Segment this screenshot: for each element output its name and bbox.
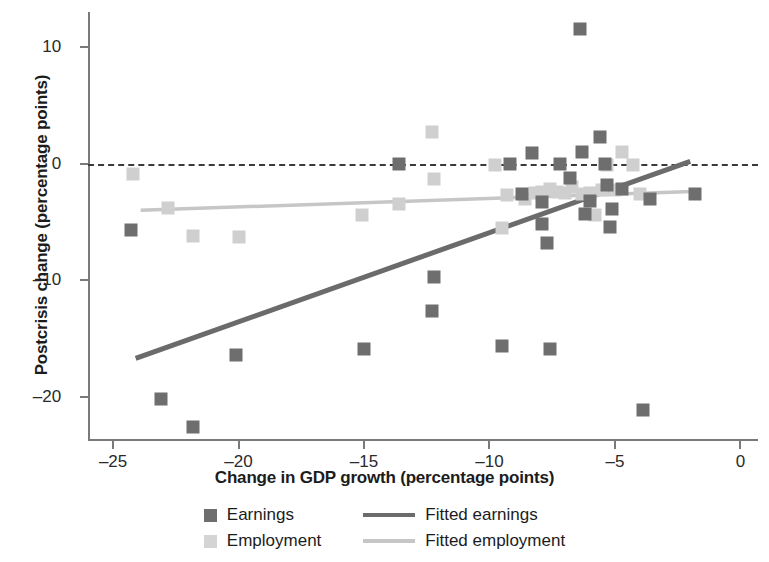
data-point-employment bbox=[428, 172, 441, 185]
data-point-earnings bbox=[124, 224, 137, 237]
data-point-earnings bbox=[154, 393, 167, 406]
data-point-employment bbox=[425, 126, 438, 139]
data-point-earnings bbox=[393, 157, 406, 170]
data-point-earnings bbox=[583, 194, 596, 207]
data-point-employment bbox=[162, 201, 175, 214]
data-point-earnings bbox=[593, 130, 606, 143]
x-tick-3 bbox=[488, 440, 490, 449]
data-point-employment bbox=[187, 229, 200, 242]
x-tick-4 bbox=[614, 440, 616, 449]
data-point-earnings bbox=[606, 203, 619, 216]
data-point-earnings bbox=[536, 218, 549, 231]
legend-item-fitted-earnings: Fitted earnings bbox=[363, 505, 565, 525]
legend-label-fitted-employment: Fitted employment bbox=[425, 531, 565, 551]
y-tick-label-0: 10 bbox=[42, 37, 61, 57]
x-tick-5 bbox=[739, 440, 741, 449]
legend-grid: Earnings Fitted earnings Employment Fitt… bbox=[204, 505, 565, 551]
legend-item-employment: Employment bbox=[204, 531, 321, 551]
data-point-employment bbox=[616, 145, 629, 158]
x-tick-0 bbox=[112, 440, 114, 449]
data-point-earnings bbox=[428, 270, 441, 283]
data-point-earnings bbox=[553, 157, 566, 170]
y-axis-title: Postcrisis change (percentage points) bbox=[32, 15, 52, 435]
data-point-employment bbox=[496, 221, 509, 234]
legend-label-earnings: Earnings bbox=[227, 505, 294, 525]
data-point-employment bbox=[127, 168, 140, 181]
data-point-earnings bbox=[689, 187, 702, 200]
fitted-lines-layer bbox=[88, 12, 758, 440]
data-point-earnings bbox=[516, 187, 529, 200]
data-point-employment bbox=[626, 158, 639, 171]
data-point-earnings bbox=[425, 304, 438, 317]
data-point-employment bbox=[232, 231, 245, 244]
x-tick-1 bbox=[238, 440, 240, 449]
fitted-employment-line-icon bbox=[363, 539, 415, 543]
data-point-employment bbox=[355, 208, 368, 221]
y-tick-label-3: –20 bbox=[33, 387, 61, 407]
scatter-plot-figure: Postcrisis change (percentage points) 10… bbox=[0, 0, 769, 562]
data-point-earnings bbox=[601, 178, 614, 191]
x-tick-2 bbox=[363, 440, 365, 449]
y-tick-label-1: 0 bbox=[52, 154, 61, 174]
data-point-earnings bbox=[573, 23, 586, 36]
data-point-employment bbox=[393, 198, 406, 211]
data-point-earnings bbox=[526, 147, 539, 160]
data-point-earnings bbox=[644, 192, 657, 205]
data-point-earnings bbox=[603, 220, 616, 233]
y-tick-label-2: –10 bbox=[33, 270, 61, 290]
plot-area: 100–10–20 –25–20–15–10–50 bbox=[88, 12, 758, 440]
data-point-earnings bbox=[636, 403, 649, 416]
data-point-earnings bbox=[541, 236, 554, 249]
data-point-earnings bbox=[578, 207, 591, 220]
data-point-employment bbox=[501, 189, 514, 202]
legend-item-earnings: Earnings bbox=[204, 505, 321, 525]
employment-marker-icon bbox=[204, 535, 217, 548]
data-point-earnings bbox=[563, 171, 576, 184]
earnings-marker-icon bbox=[204, 509, 217, 522]
legend-item-fitted-employment: Fitted employment bbox=[363, 531, 565, 551]
data-point-earnings bbox=[187, 421, 200, 434]
data-point-earnings bbox=[358, 343, 371, 356]
data-point-earnings bbox=[536, 196, 549, 209]
legend-label-employment: Employment bbox=[227, 531, 321, 551]
x-axis-title: Change in GDP growth (percentage points) bbox=[0, 468, 769, 488]
data-point-earnings bbox=[503, 157, 516, 170]
fitted-earnings-line-icon bbox=[363, 513, 415, 517]
data-point-earnings bbox=[230, 348, 243, 361]
legend: Earnings Fitted earnings Employment Fitt… bbox=[0, 505, 769, 551]
data-point-earnings bbox=[543, 343, 556, 356]
data-point-employment bbox=[488, 158, 501, 171]
legend-label-fitted-earnings: Fitted earnings bbox=[425, 505, 537, 525]
data-point-earnings bbox=[576, 145, 589, 158]
data-point-earnings bbox=[496, 339, 509, 352]
data-point-earnings bbox=[616, 183, 629, 196]
data-point-earnings bbox=[598, 157, 611, 170]
